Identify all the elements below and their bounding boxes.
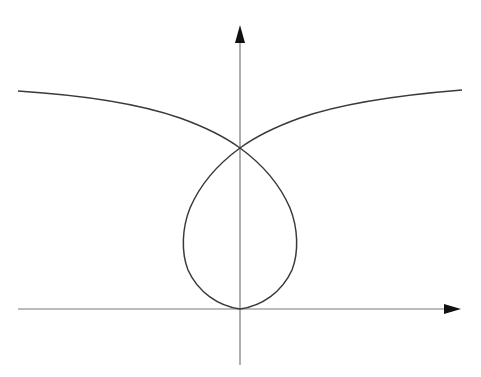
diagram-canvas [0,0,481,377]
curve-branch-right [183,90,462,309]
x-axis-arrow-icon [444,304,461,314]
curve-branch-left [18,91,297,309]
y-axis-arrow-icon [235,25,245,43]
